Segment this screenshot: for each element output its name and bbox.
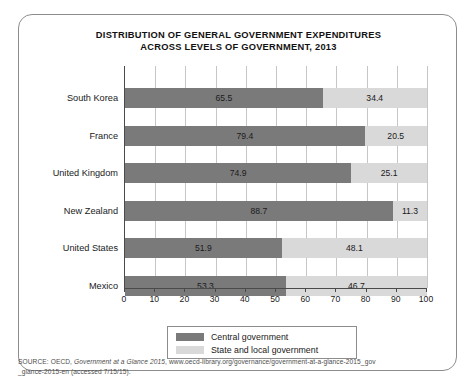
x-axis-tick-label: 10 xyxy=(141,294,167,304)
bar-segment: 65.5 xyxy=(125,88,323,108)
bar-row: 51.948.1 xyxy=(125,238,427,258)
category-label: United Kingdom xyxy=(53,166,118,180)
bar-segment: 88.7 xyxy=(125,201,393,221)
x-axis-tick xyxy=(184,288,185,292)
x-axis-tick-label: 20 xyxy=(171,294,197,304)
bar-value-label: 65.5 xyxy=(125,88,323,108)
x-axis-tick xyxy=(245,288,246,292)
bar-segment: 79.4 xyxy=(125,126,365,146)
x-axis-tick xyxy=(305,288,306,292)
gridline xyxy=(427,66,428,288)
chart-legend: Central governmentState and local govern… xyxy=(167,326,357,359)
x-axis-tick xyxy=(396,288,397,292)
legend-item[interactable]: Central government xyxy=(176,330,288,343)
bar-segment: 11.3 xyxy=(393,201,427,221)
category-label: South Korea xyxy=(67,91,118,105)
chart-title-line-2: ACROSS LEVELS OF GOVERNMENT, 2013 xyxy=(19,41,458,53)
category-label: France xyxy=(89,129,118,143)
x-axis-tick xyxy=(154,288,155,292)
source-prefix: SOURCE: OECD, xyxy=(18,358,74,365)
x-axis-tick xyxy=(275,288,276,292)
x-axis-tick xyxy=(426,288,427,292)
bar-segment: 51.9 xyxy=(125,238,282,258)
bar-value-label: 51.9 xyxy=(125,238,282,258)
bar-value-label: 20.5 xyxy=(365,126,427,146)
bar-value-label: 48.1 xyxy=(282,238,427,258)
bar-row: 74.925.1 xyxy=(125,163,427,183)
bar-value-label: 25.1 xyxy=(351,163,427,183)
x-axis-tick-label: 30 xyxy=(202,294,228,304)
bar-segment: 74.9 xyxy=(125,163,351,183)
figure-card: DISTRIBUTION OF GENERAL GOVERNMENT EXPEN… xyxy=(18,14,457,371)
legend-swatch-local xyxy=(176,346,204,354)
x-axis-tick xyxy=(366,288,367,292)
bar-value-label: 74.9 xyxy=(125,163,351,183)
x-axis-tick-label: 70 xyxy=(322,294,348,304)
source-note: SOURCE: OECD, Government at a Glance 201… xyxy=(18,357,458,376)
bar-value-label: 11.3 xyxy=(393,201,427,221)
bar-segment: 46.7 xyxy=(286,276,427,296)
bar-row: 79.420.5 xyxy=(125,126,427,146)
bar-segment: 53.3 xyxy=(125,276,286,296)
bar-value-label: 88.7 xyxy=(125,201,393,221)
bar-value-label: 46.7 xyxy=(286,276,427,296)
bar-segment: 34.4 xyxy=(323,88,427,108)
chart-plot-area: South KoreaFranceUnited KingdomNew Zeala… xyxy=(31,66,446,310)
x-axis-tick-label: 100 xyxy=(413,294,439,304)
source-line-2: _glance-2015-en (accessed 7/15/15). xyxy=(18,367,458,377)
bar-row: 88.711.3 xyxy=(125,201,427,221)
legend-swatch-central xyxy=(176,333,204,341)
legend-label: State and local government xyxy=(211,345,318,355)
chart-title-line-1: DISTRIBUTION OF GENERAL GOVERNMENT EXPEN… xyxy=(96,30,381,40)
bar-value-label: 53.3 xyxy=(125,276,286,296)
x-axis-tick xyxy=(215,288,216,292)
x-axis-tick xyxy=(124,288,125,292)
source-url: , www.oecd-library.org/governance/govern… xyxy=(165,358,376,365)
bar-segment: 48.1 xyxy=(282,238,427,258)
bar-value-label: 34.4 xyxy=(323,88,427,108)
x-axis-tick-label: 80 xyxy=(353,294,379,304)
bar-value-label: 79.4 xyxy=(125,126,365,146)
category-label: New Zealand xyxy=(64,204,118,218)
source-publication-title: Government at a Glance 2015 xyxy=(74,358,165,365)
page-title: DISTRIBUTION OF GENERAL GOVERNMENT EXPEN… xyxy=(19,29,458,54)
bar-row: 65.534.4 xyxy=(125,88,427,108)
x-axis-tick-label: 50 xyxy=(262,294,288,304)
category-label: United States xyxy=(63,241,118,255)
legend-label: Central government xyxy=(211,332,288,342)
legend-item[interactable]: State and local government xyxy=(176,343,318,356)
x-axis-tick-label: 90 xyxy=(383,294,409,304)
plot-grid: 65.534.479.420.574.925.188.711.351.948.1… xyxy=(124,66,427,288)
category-axis-labels: South KoreaFranceUnited KingdomNew Zeala… xyxy=(31,66,123,288)
bar-segment: 25.1 xyxy=(351,163,427,183)
bar-row: 53.346.7 xyxy=(125,276,427,296)
bar-segment: 20.5 xyxy=(365,126,427,146)
x-axis-tick-label: 40 xyxy=(232,294,258,304)
category-label: Mexico xyxy=(89,279,118,293)
x-axis-tick-label: 60 xyxy=(292,294,318,304)
x-axis-tick xyxy=(335,288,336,292)
x-axis-tick-label: 0 xyxy=(111,294,137,304)
